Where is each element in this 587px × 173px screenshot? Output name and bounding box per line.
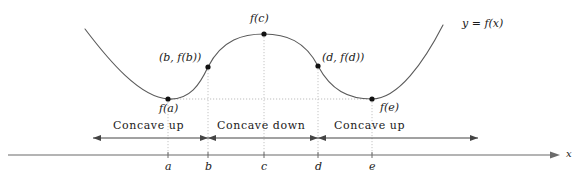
region-label-concave-up-left: Concave up <box>113 120 184 131</box>
curve-function-label: y = f(x) <box>462 18 503 29</box>
point-c-dot <box>261 31 266 36</box>
x-axis <box>8 152 560 159</box>
point-b-dot <box>205 64 210 69</box>
point-a-dot <box>165 96 170 101</box>
tick-label-d: d <box>315 161 322 172</box>
region-arrow-concave-up-left <box>93 135 208 141</box>
region-label-concave-down: Concave down <box>217 120 305 131</box>
tick-label-c: c <box>261 161 267 172</box>
region-label-concave-up-right: Concave up <box>334 120 405 131</box>
tick-label-a: a <box>165 161 172 172</box>
region-arrow-concave-down <box>208 135 318 141</box>
point-c-label: f(c) <box>250 13 269 24</box>
x-axis-label: x <box>566 149 572 159</box>
point-b-label: (b, f(b)) <box>159 52 201 63</box>
concavity-figure: f(a) (b, f(b)) f(c) (d, f(d)) f(e) y = f… <box>0 0 587 173</box>
region-arrow-concave-up-right <box>318 135 478 141</box>
point-e-dot <box>369 96 374 101</box>
tick-label-e: e <box>369 161 376 172</box>
point-d-label: (d, f(d)) <box>322 52 364 63</box>
point-d-dot <box>315 63 320 68</box>
point-a-label: f(a) <box>159 103 178 114</box>
point-e-label: f(e) <box>380 102 399 113</box>
tick-label-b: b <box>205 161 212 172</box>
